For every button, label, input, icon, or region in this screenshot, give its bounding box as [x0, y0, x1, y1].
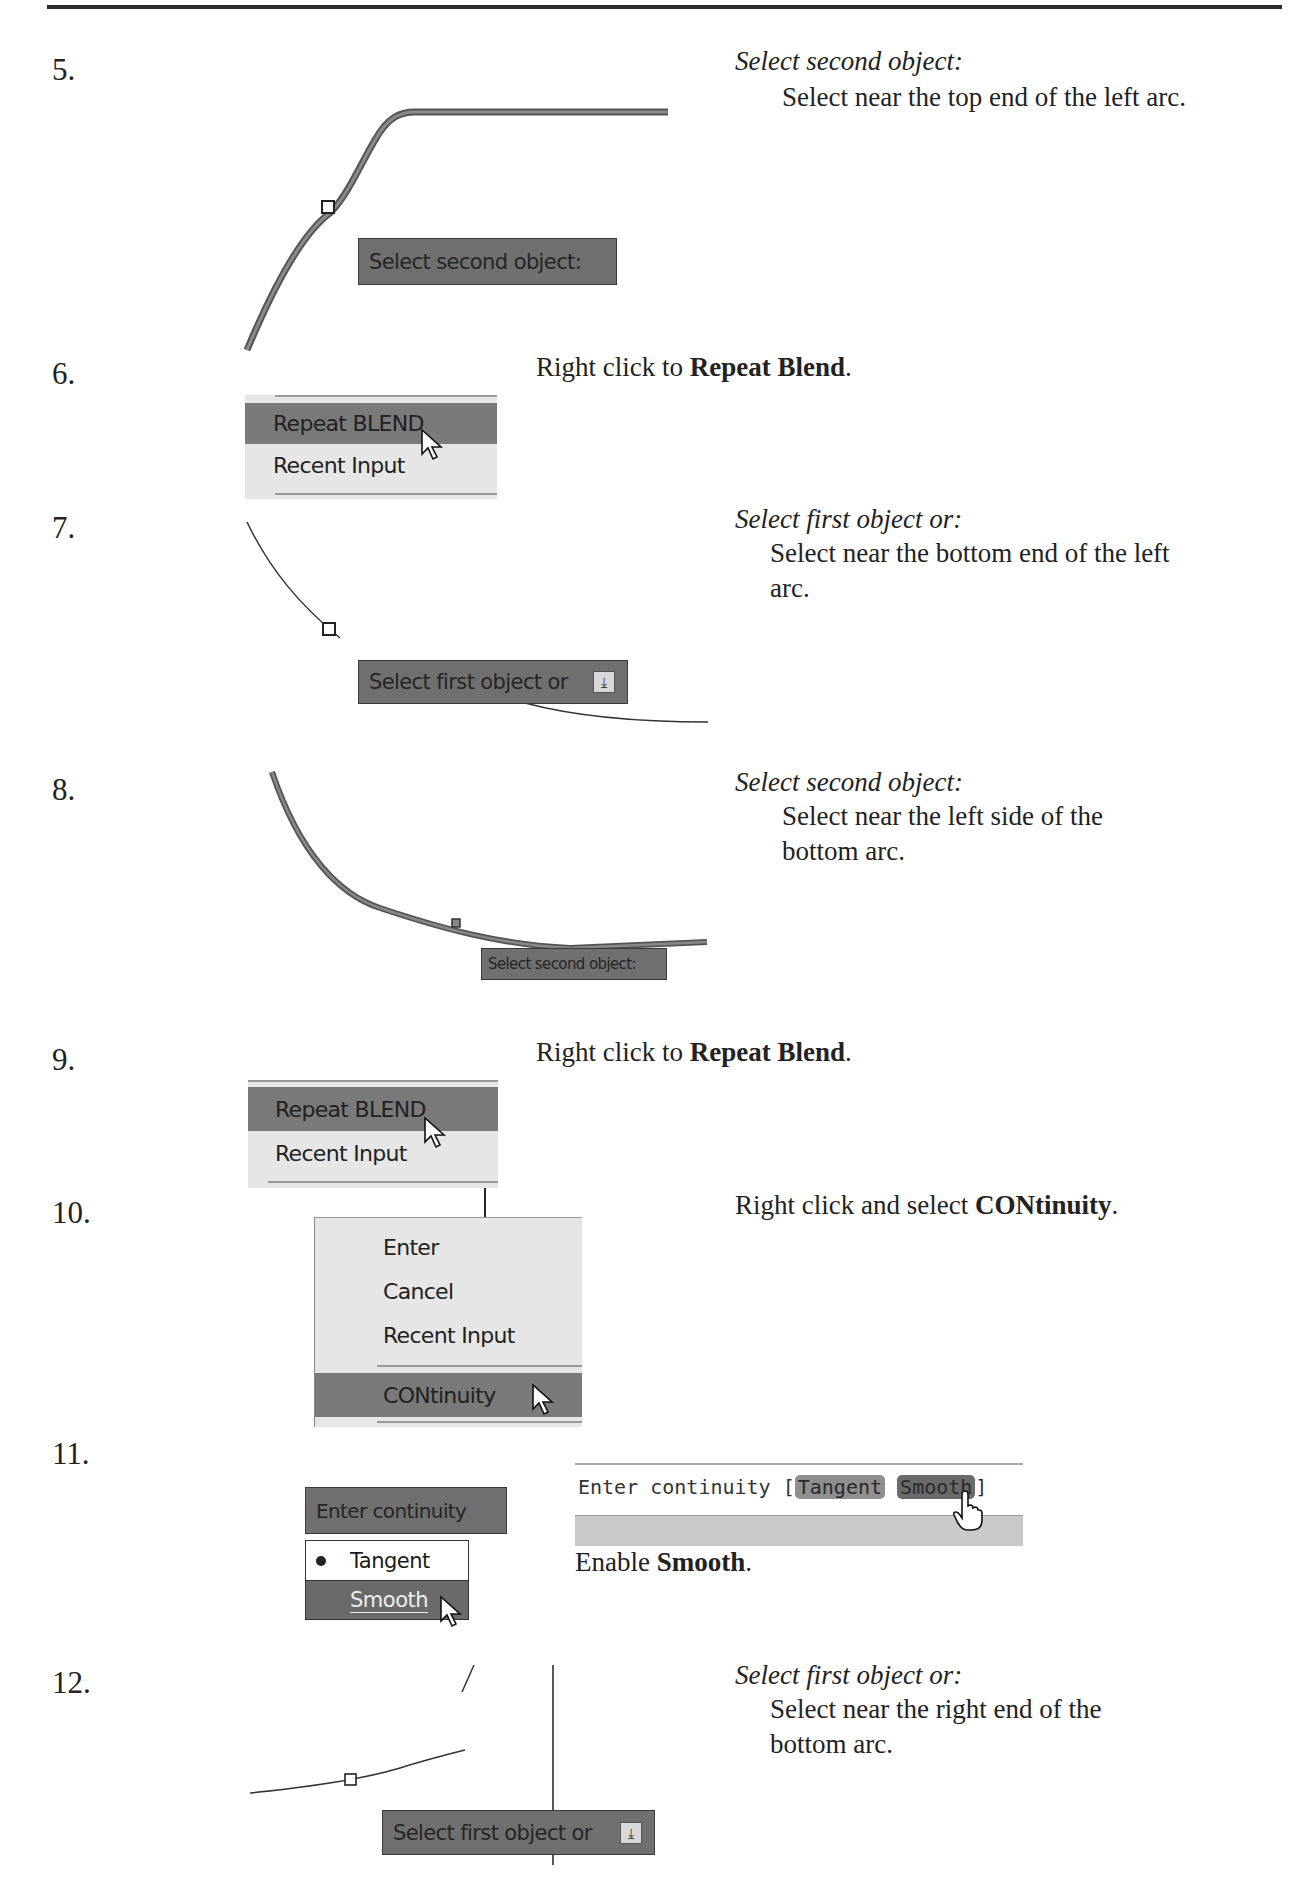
tooltip-enter-continuity: Enter continuity — [305, 1487, 507, 1534]
tooltip-text: Enter continuity — [316, 1499, 466, 1523]
context-menu-step-6: Repeat BLEND Recent Input — [245, 395, 497, 499]
command-line-top-border — [575, 1463, 1023, 1465]
step-5-prompt: Select second object: — [735, 44, 963, 78]
menu-item-label: Recent Input — [273, 453, 405, 478]
step-7-description: Select near the bottom end of the left a… — [770, 536, 1190, 606]
grip-marker-icon — [323, 623, 335, 635]
option-tangent[interactable]: Tangent — [306, 1541, 468, 1581]
menu-item-recent-input[interactable]: Recent Input — [248, 1131, 498, 1175]
command-prompt-text: Enter continuity [ — [578, 1475, 795, 1499]
step-8-description: Select near the left side of the bottom … — [782, 799, 1182, 869]
instruction-bold: Repeat Blend — [690, 352, 845, 382]
grip-marker-icon — [322, 201, 334, 213]
step-12-description: Select near the right end of the bottom … — [770, 1692, 1170, 1762]
menu-item-cancel[interactable]: Cancel — [315, 1270, 582, 1312]
instruction-bold: Repeat Blend — [690, 1037, 845, 1067]
step-10-instruction: Right click and select CONtinuity. — [735, 1190, 1118, 1221]
arc-drawing-12 — [240, 1650, 680, 1895]
option-label: Tangent — [350, 1549, 430, 1573]
option-label: Smooth — [350, 1588, 428, 1613]
menu-item-label: Repeat BLEND — [275, 1097, 426, 1122]
step-number-10: 10. — [52, 1195, 91, 1231]
menu-item-label: Enter — [383, 1235, 439, 1260]
tooltip-select-first-object: Select first object or ⤓ — [382, 1810, 655, 1855]
step-11-instruction: Enable Smooth. — [575, 1547, 752, 1578]
menu-item-recent-input[interactable]: Recent Input — [315, 1314, 582, 1356]
context-menu-step-10: Enter Cancel Recent Input CONtinuity — [314, 1217, 582, 1427]
hand-pointer-icon — [952, 1490, 986, 1532]
mouse-pointer-icon — [439, 1595, 463, 1629]
instruction-suffix: . — [1111, 1190, 1118, 1220]
command-option-tangent[interactable]: Tangent — [795, 1475, 885, 1499]
step-number-8: 8. — [52, 772, 75, 808]
menu-item-label: CONtinuity — [383, 1383, 496, 1408]
tooltip-text: Select second object: — [369, 250, 581, 274]
grip-marker-icon — [452, 919, 460, 927]
instruction-bold: CONtinuity — [975, 1190, 1112, 1220]
mouse-pointer-icon — [420, 428, 444, 462]
command-line-prompt: Enter continuity [Tangent Smooth] — [578, 1475, 987, 1499]
instruction-text: Enable — [575, 1547, 657, 1577]
continuity-options-list: Tangent Smooth — [305, 1540, 469, 1620]
step-number-11: 11. — [52, 1436, 90, 1472]
instruction-bold: Smooth — [657, 1547, 746, 1577]
selected-bullet-icon — [316, 1556, 326, 1566]
step-6-instruction: Right click to Repeat Blend. — [536, 352, 852, 383]
instruction-text: Right click and select — [735, 1190, 975, 1220]
instruction-suffix: . — [845, 1037, 852, 1067]
mouse-pointer-icon — [423, 1116, 447, 1150]
step-number-5: 5. — [52, 52, 75, 88]
instruction-text: Right click to — [536, 352, 690, 382]
crosshair-line — [484, 1188, 486, 1218]
step-number-6: 6. — [52, 356, 75, 392]
grip-marker-icon — [345, 1774, 356, 1785]
instruction-suffix: . — [845, 352, 852, 382]
menu-item-label: Cancel — [383, 1279, 453, 1304]
step-9-instruction: Right click to Repeat Blend. — [536, 1037, 852, 1068]
menu-item-repeat-blend[interactable]: Repeat BLEND — [245, 403, 497, 444]
step-8-prompt: Select second object: — [735, 765, 963, 799]
menu-item-repeat-blend[interactable]: Repeat BLEND — [248, 1087, 498, 1131]
menu-item-enter[interactable]: Enter — [315, 1226, 582, 1268]
menu-item-label: Recent Input — [275, 1141, 407, 1166]
tooltip-select-first-object: Select first object or ⤓ — [358, 660, 628, 704]
menu-item-label: Recent Input — [383, 1323, 515, 1348]
step-number-7: 7. — [52, 510, 75, 546]
step-number-12: 12. — [52, 1665, 91, 1701]
tooltip-text: Select first object or — [393, 1821, 592, 1845]
down-arrow-icon[interactable]: ⤓ — [593, 671, 615, 693]
instruction-suffix: . — [745, 1547, 752, 1577]
menu-item-label: Repeat BLEND — [273, 411, 424, 436]
blend-curve-drawing-5 — [230, 95, 680, 365]
context-menu-step-9: Repeat BLEND Recent Input — [248, 1080, 498, 1188]
tooltip-text: Select second object: — [488, 955, 636, 973]
tooltip-text: Select first object or — [369, 670, 568, 694]
instruction-text: Right click to — [536, 1037, 690, 1067]
blend-curve-drawing-8 — [240, 760, 720, 960]
tooltip-select-second-object: Select second object: — [481, 948, 667, 980]
step-5-description: Select near the top end of the left arc. — [782, 80, 1202, 115]
down-arrow-icon[interactable]: ⤓ — [620, 1822, 642, 1844]
page-top-rule — [47, 5, 1282, 9]
menu-item-recent-input[interactable]: Recent Input — [245, 444, 497, 486]
tooltip-select-second-object: Select second object: — [358, 238, 617, 285]
mouse-pointer-icon — [531, 1383, 555, 1417]
step-7-prompt: Select first object or: — [735, 502, 962, 536]
step-number-9: 9. — [52, 1042, 75, 1078]
step-12-prompt: Select first object or: — [735, 1658, 962, 1692]
